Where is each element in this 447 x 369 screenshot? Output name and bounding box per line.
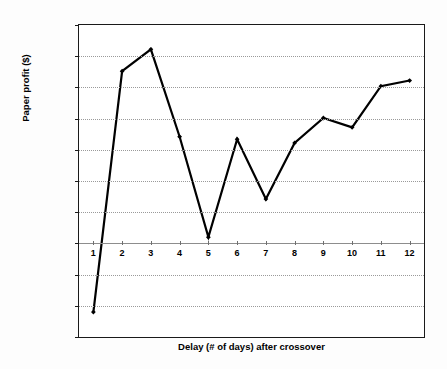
y-tick-mark [75, 87, 79, 88]
gridline-horizontal [79, 306, 424, 307]
y-tick-mark [75, 306, 79, 307]
gridline-horizontal [79, 150, 424, 151]
x-tick-mark [295, 241, 296, 245]
x-tick-label: 11 [366, 248, 396, 258]
x-tick-mark [352, 241, 353, 245]
x-tick-label: 1 [78, 248, 108, 258]
x-tick-mark [122, 241, 123, 245]
x-tick-mark [323, 241, 324, 245]
y-tick-mark [75, 119, 79, 120]
x-tick-label: 3 [136, 248, 166, 258]
gridline-horizontal [79, 87, 424, 88]
plot-area: 35000300002500020000150001000050000-5000… [78, 24, 425, 338]
gridline-horizontal [79, 119, 424, 120]
y-tick-mark [75, 337, 79, 338]
data-point-marker [407, 78, 412, 83]
gridline-horizontal [79, 56, 424, 57]
x-tick-label: 12 [395, 248, 425, 258]
y-tick-mark [75, 212, 79, 213]
plot-inner: 35000300002500020000150001000050000-5000… [79, 25, 424, 337]
y-tick-mark [75, 275, 79, 276]
y-axis-title: Paper profit ($) [20, 28, 34, 148]
gridline-horizontal [79, 181, 424, 182]
x-tick-label: 9 [308, 248, 338, 258]
x-tick-label: 5 [193, 248, 223, 258]
x-tick-label: 2 [107, 248, 137, 258]
x-tick-mark [266, 241, 267, 245]
x-tick-label: 7 [251, 248, 281, 258]
y-tick-mark [75, 56, 79, 57]
gridline-horizontal [79, 275, 424, 276]
x-tick-mark [237, 241, 238, 245]
x-tick-mark [93, 241, 94, 245]
y-tick-mark [75, 243, 79, 244]
data-point-marker [206, 235, 211, 240]
x-tick-mark [208, 241, 209, 245]
x-tick-mark [381, 241, 382, 245]
x-tick-mark [151, 241, 152, 245]
x-tick-label: 4 [165, 248, 195, 258]
chart-figure: Paper profit ($) 35000300002500020000150… [0, 0, 447, 369]
zero-line [79, 243, 424, 244]
gridline-horizontal [79, 212, 424, 213]
y-tick-mark [75, 181, 79, 182]
x-tick-label: 6 [222, 248, 252, 258]
y-tick-mark [75, 150, 79, 151]
x-tick-mark [410, 241, 411, 245]
x-tick-mark [180, 241, 181, 245]
x-axis-title: Delay (# of days) after crossover [78, 341, 425, 352]
data-point-marker [91, 310, 96, 315]
x-tick-label: 10 [337, 248, 367, 258]
y-tick-mark [75, 25, 79, 26]
x-tick-label: 8 [280, 248, 310, 258]
